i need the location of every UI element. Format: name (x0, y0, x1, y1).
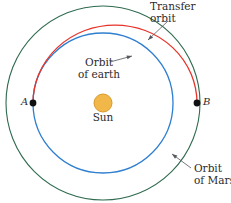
transfer-orbit-label-line1: Transfer (150, 1, 196, 13)
sun-body (94, 94, 112, 112)
orbit-of-earth-label-line2: of earth (68, 69, 130, 81)
sun-label: Sun (86, 112, 120, 124)
orbit-of-mars-label: Orbit of Mars (194, 163, 231, 186)
transfer-orbit-label-line2: orbit (150, 13, 196, 25)
point-a-label: A (21, 96, 28, 108)
point-b-label: B (203, 96, 210, 108)
orbit-of-earth-label: Orbit of earth (68, 57, 130, 80)
orbital-transfer-diagram: Transfer orbit Orbit of earth Sun Orbit … (0, 0, 231, 203)
transfer-orbit-label: Transfer orbit (150, 1, 196, 24)
orbit-of-mars-leader-arrowhead (172, 154, 177, 159)
point-a-marker (30, 100, 37, 107)
orbit-of-earth-label-line1: Orbit (68, 57, 130, 69)
orbit-of-mars-label-line2: of Mars (194, 175, 231, 187)
orbit-of-mars-label-line1: Orbit (194, 163, 231, 175)
point-b-marker (194, 100, 201, 107)
